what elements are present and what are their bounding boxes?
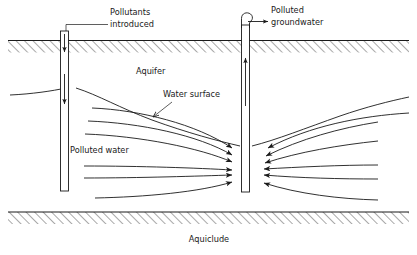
polluted-groundwater-label-line1: Polluted [271, 5, 304, 15]
pumping-well [242, 13, 269, 192]
streamline-left-4 [84, 166, 232, 170]
groundwater-diagram: Pollutants introduced Polluted groundwat… [0, 0, 417, 255]
aquiclude-layer [8, 212, 409, 224]
streamline-right-5 [264, 175, 378, 179]
water-surface-leader [153, 102, 172, 117]
aquiclude-label: Aquiclude [189, 234, 229, 244]
diagram-root: Pollutants introduced Polluted groundwat… [0, 0, 417, 255]
streamline-right-3 [265, 141, 378, 163]
polluted-groundwater-label-line2: groundwater [271, 17, 324, 27]
pollutants-introduced-label-line2: introduced [110, 19, 154, 29]
right-streamlines [264, 113, 409, 200]
polluted-water-label: Polluted water [70, 145, 129, 155]
pollutants-introduced-label-line1: Pollutants [110, 7, 150, 17]
pollutants-leader [66, 25, 108, 32]
pumping-well-casing [242, 25, 250, 192]
aquifer-label: Aquifer [136, 66, 166, 76]
streamline-right-6 [264, 183, 378, 200]
streamline-left-6 [95, 182, 232, 198]
water-surface-cone-right [252, 97, 409, 146]
recharge-well [61, 31, 69, 191]
recharge-well-casing [61, 31, 69, 191]
streamline-right-1 [268, 113, 409, 148]
streamline-left-5 [84, 175, 232, 178]
streamline-left-1 [92, 108, 232, 148]
water-surface-left-segment [10, 88, 66, 95]
water-surface-label: Water surface [163, 89, 220, 99]
streamline-right-4 [264, 165, 378, 169]
aquiclude-hatching [8, 212, 409, 224]
